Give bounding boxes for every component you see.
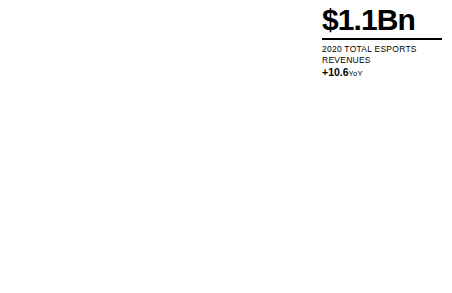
headline-yoy-suffix: YoY [349,69,363,78]
headline-subtitle: 2020 TOTAL ESPORTS REVENUES [322,44,444,65]
headline-divider [322,38,442,40]
headline-yoy: +10.6YoY [322,66,444,80]
headline-subtitle-line1: 2020 TOTAL ESPORTS [322,44,444,55]
headline-yoy-value: +10.6 [322,66,349,78]
headline-subtitle-line2: REVENUES [322,55,444,66]
headline-block: $1.1Bn 2020 TOTAL ESPORTS REVENUES +10.6… [322,4,444,80]
headline-total-value: $1.1Bn [322,4,444,36]
